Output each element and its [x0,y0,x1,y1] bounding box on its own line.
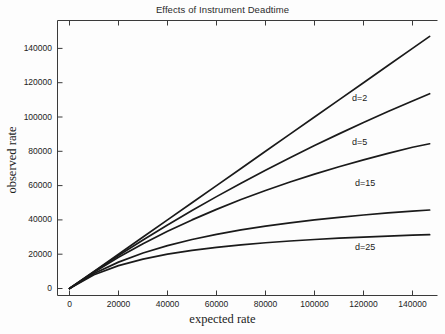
y-axis-title: observed rate [5,105,20,215]
y-tick-label-140000: 140000 [0,43,52,53]
x-ticks [70,291,413,296]
y-tick-label-0: 0 [0,283,52,293]
axis-frame [58,21,438,296]
x-ticks-top [70,21,413,26]
x-axis-title: expected rate [0,312,445,327]
plot-area [0,0,445,334]
curve-d=2 [70,94,430,289]
y-tick-label-20000: 20000 [0,249,52,259]
curve-label-d5: d=5 [352,137,367,147]
chart-figure: Effects of Instrument Deadtime [0,0,445,334]
y-ticks [58,48,63,288]
curve-label-d2: d=2 [352,93,367,103]
y-tick-label-40000: 40000 [0,214,52,224]
curve-d=15 [70,210,430,288]
curve-d=25 [70,235,430,289]
x-tick-label-140000: 140000 [383,299,443,309]
curve-reference [70,36,430,288]
curve-label-d25: d=25 [355,242,375,252]
data-curves [70,36,430,288]
curve-label-d15: d=15 [355,178,375,188]
curve-d=5 [70,144,430,289]
y-tick-label-120000: 120000 [0,77,52,87]
